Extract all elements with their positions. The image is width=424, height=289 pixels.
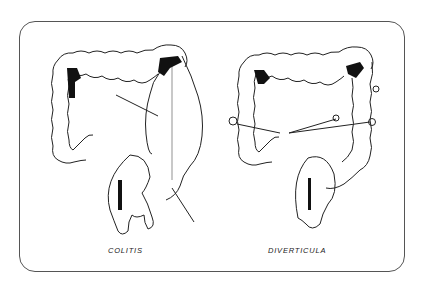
diverticula-label: DIVERTICULA (268, 246, 326, 255)
colitis-label: COLITIS (108, 246, 143, 255)
colitis-shading (67, 56, 182, 210)
diverticula-shading (254, 62, 364, 210)
colon-illustrations (0, 0, 424, 289)
